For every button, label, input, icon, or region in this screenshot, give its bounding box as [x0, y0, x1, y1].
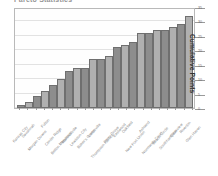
x-axis-label: Lucasville	[87, 123, 101, 138]
bar	[41, 91, 49, 108]
bar	[25, 102, 33, 108]
y-axis-tick-label: 10	[198, 78, 202, 82]
bar	[33, 96, 41, 108]
bar	[153, 30, 161, 108]
x-axis-tick	[192, 108, 193, 110]
x-axis-tick	[85, 108, 86, 110]
x-axis-tick	[36, 108, 37, 110]
bar	[121, 45, 129, 108]
y-axis-tick-label: 0	[198, 107, 200, 111]
x-axis-tick	[101, 108, 102, 110]
bar	[81, 68, 89, 108]
x-axis-tick	[167, 108, 168, 110]
x-axis-tick	[68, 108, 69, 110]
x-axis-tick	[151, 108, 152, 110]
x-axis-tick	[159, 108, 160, 110]
y-axis-title: Cumulative Points	[189, 34, 196, 93]
x-axis-tick	[60, 108, 61, 110]
y-axis-tick	[195, 95, 205, 96]
chart-title: Pareto Statistics	[14, 0, 134, 4]
bar	[137, 33, 145, 108]
bar	[65, 71, 73, 109]
x-axis-tick	[27, 108, 28, 110]
bar	[161, 30, 169, 108]
y-axis: 05101520253035	[195, 8, 205, 109]
x-axis-tick	[44, 108, 45, 110]
bar	[145, 33, 153, 108]
bar	[105, 56, 113, 108]
bar	[73, 68, 81, 108]
bar	[113, 47, 121, 108]
x-axis-label: Fulton	[40, 118, 50, 129]
x-axis-tick	[110, 108, 111, 110]
x-axis-tick	[77, 108, 78, 110]
bar	[169, 27, 177, 108]
bar-series	[15, 9, 194, 108]
x-axis-tick	[184, 108, 185, 110]
x-axis-tick	[175, 108, 176, 110]
x-axis-tick	[118, 108, 119, 110]
y-axis-tick	[195, 109, 205, 110]
y-axis-tick-label: 20	[198, 49, 202, 53]
x-axis-label: Morgan Downs	[27, 129, 47, 151]
pareto-chart: Pareto Statistics 05101520253035 Cumulat…	[0, 0, 218, 176]
bar	[57, 79, 65, 108]
x-axis-tick	[126, 108, 127, 110]
x-axis-labels: Kansas CitySavannahMorgan DownsFultonCen…	[14, 110, 195, 172]
y-axis-tick-label: 5	[198, 93, 200, 97]
y-axis-tick-label: 25	[198, 35, 202, 39]
x-axis-tick	[143, 108, 144, 110]
bar	[49, 85, 57, 108]
bar	[97, 59, 105, 108]
y-axis-tick-label: 35	[198, 6, 202, 10]
y-axis-tick-label: 15	[198, 64, 202, 68]
plot-area	[14, 8, 195, 109]
bar	[129, 42, 137, 108]
bar	[177, 24, 185, 108]
x-axis-tick	[93, 108, 94, 110]
x-axis-tick	[19, 108, 20, 110]
y-axis-tick-label: 30	[198, 20, 202, 24]
x-axis-tick	[134, 108, 135, 110]
x-axis-tick	[52, 108, 53, 110]
bar	[89, 59, 97, 108]
